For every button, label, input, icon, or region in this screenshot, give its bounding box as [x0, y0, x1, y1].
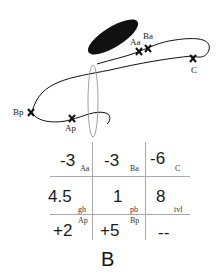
cell-value: +2	[53, 222, 72, 239]
marker-label-bp: Bp	[13, 108, 24, 117]
marker-label-ap: Ap	[65, 124, 76, 133]
cross-marker-icon	[136, 48, 142, 55]
cell-value: -3	[104, 152, 119, 169]
grid-divider	[92, 142, 93, 240]
grid-divider	[50, 214, 190, 215]
panel-label: B	[101, 249, 114, 269]
cell-value: 4.5	[48, 188, 72, 205]
cell-subscript: tvl	[174, 206, 182, 214]
cell-superscript: Bp	[130, 217, 139, 225]
cell-value: +5	[100, 222, 119, 239]
diagram-drawing	[0, 0, 218, 140]
cell-subscript: Ba	[130, 165, 139, 173]
chromosome-diagram: Aa Ba C Bp Ap	[0, 0, 218, 140]
cell-value: -3	[60, 152, 75, 169]
cell-subscript: Aa	[80, 165, 89, 173]
loop-ellipse-icon	[88, 65, 98, 137]
cell-value: --	[158, 224, 169, 241]
marker-label-c: C	[191, 66, 197, 75]
cross-marker-icon	[28, 109, 34, 116]
grid-divider	[50, 176, 190, 177]
cell-superscript: Ap	[78, 217, 88, 225]
cell-subscript: C	[175, 165, 180, 173]
cell-subscript: gh	[78, 206, 86, 214]
chromatin-curve	[32, 39, 209, 124]
cell-subscript: pb	[130, 206, 138, 214]
cell-value: -6	[150, 150, 165, 167]
values-table: -3 Aa -3 Ba -6 C 4.5 gh 1 pb 8 tvl +2 Ap…	[48, 140, 198, 240]
cell-value: 8	[156, 188, 165, 205]
grid-divider	[145, 142, 146, 240]
cell-value: 1	[113, 188, 122, 205]
marker-label-aa: Aa	[130, 38, 141, 47]
marker-label-ba: Ba	[143, 32, 153, 41]
